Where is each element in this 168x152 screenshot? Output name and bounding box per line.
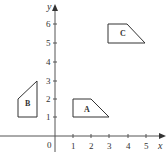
x-tick-label: 2 xyxy=(89,141,94,151)
shape-a-label: A xyxy=(84,105,90,114)
x-axis-arrow-icon xyxy=(159,133,166,139)
origin-label: 0 xyxy=(47,140,52,150)
x-tick-label: 4 xyxy=(126,141,131,151)
shape-b-label: B xyxy=(25,99,31,108)
y-tick-label: 6 xyxy=(46,19,51,29)
y-tick-label: 3 xyxy=(46,76,51,86)
y-tick-label: 5 xyxy=(46,38,51,48)
shape-c xyxy=(108,24,145,43)
y-tick-label: 1 xyxy=(46,112,51,122)
coordinate-grid: x y 0 1 2 3 4 5 1 2 3 4 5 6 A B C xyxy=(0,0,168,152)
x-tick-label: 5 xyxy=(144,141,149,151)
x-axis-label: x xyxy=(157,140,163,151)
x-tick-label: 1 xyxy=(71,141,76,151)
y-axis-label: y xyxy=(46,1,52,12)
shape-a xyxy=(73,99,109,117)
y-tick-label: 2 xyxy=(46,94,51,104)
y-axis-arrow-icon xyxy=(52,4,58,11)
y-tick-label: 4 xyxy=(46,57,51,67)
shape-c-label: C xyxy=(120,29,126,38)
x-tick-label: 3 xyxy=(107,141,112,151)
